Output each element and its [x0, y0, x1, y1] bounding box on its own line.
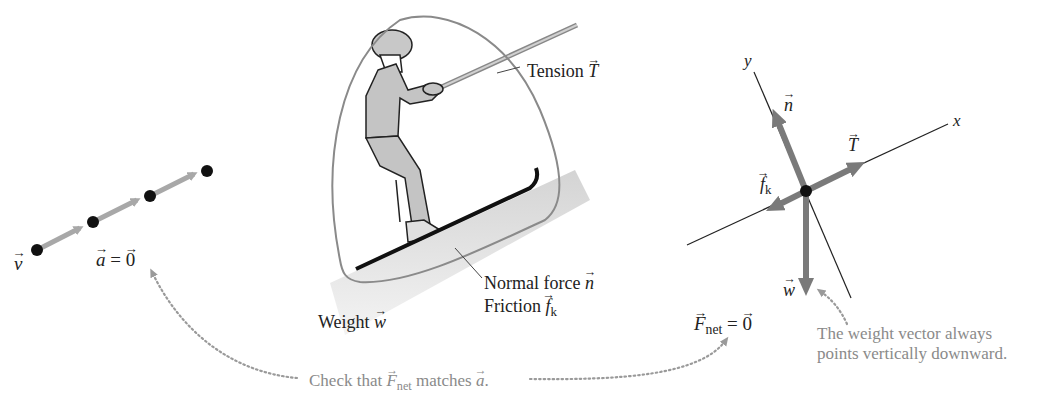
- position-dot: [87, 216, 99, 228]
- w-vector-label: w: [783, 281, 795, 299]
- position-dot: [144, 190, 156, 202]
- normal-force-vector: [776, 117, 806, 191]
- position-dot: [201, 165, 213, 177]
- normal-force-label: Normal force n: [484, 274, 594, 292]
- velocity-label: v: [14, 254, 22, 273]
- motion-diagram: [31, 165, 213, 256]
- friction-label: Friction fk: [484, 297, 557, 319]
- fk-vector-label: fk: [760, 175, 772, 197]
- tension-vector: [806, 166, 857, 191]
- x-axis-label: x: [953, 112, 961, 129]
- acceleration-equation: a = 0: [96, 250, 135, 269]
- position-dot: [31, 244, 43, 256]
- check-note: Check that Fnet matches a.: [309, 372, 489, 392]
- particle-dot: [800, 185, 812, 197]
- weight-label: Weight w: [318, 313, 386, 331]
- y-axis-label: y: [744, 52, 752, 69]
- T-vector-label: T: [848, 136, 858, 154]
- net-force-equation: Fnet = 0: [694, 314, 752, 337]
- free-body-diagram: [687, 72, 948, 298]
- weight-note: The weight vector always points vertical…: [817, 324, 1007, 365]
- tension-label: Tension T: [527, 62, 598, 80]
- n-vector-label: n: [784, 96, 793, 114]
